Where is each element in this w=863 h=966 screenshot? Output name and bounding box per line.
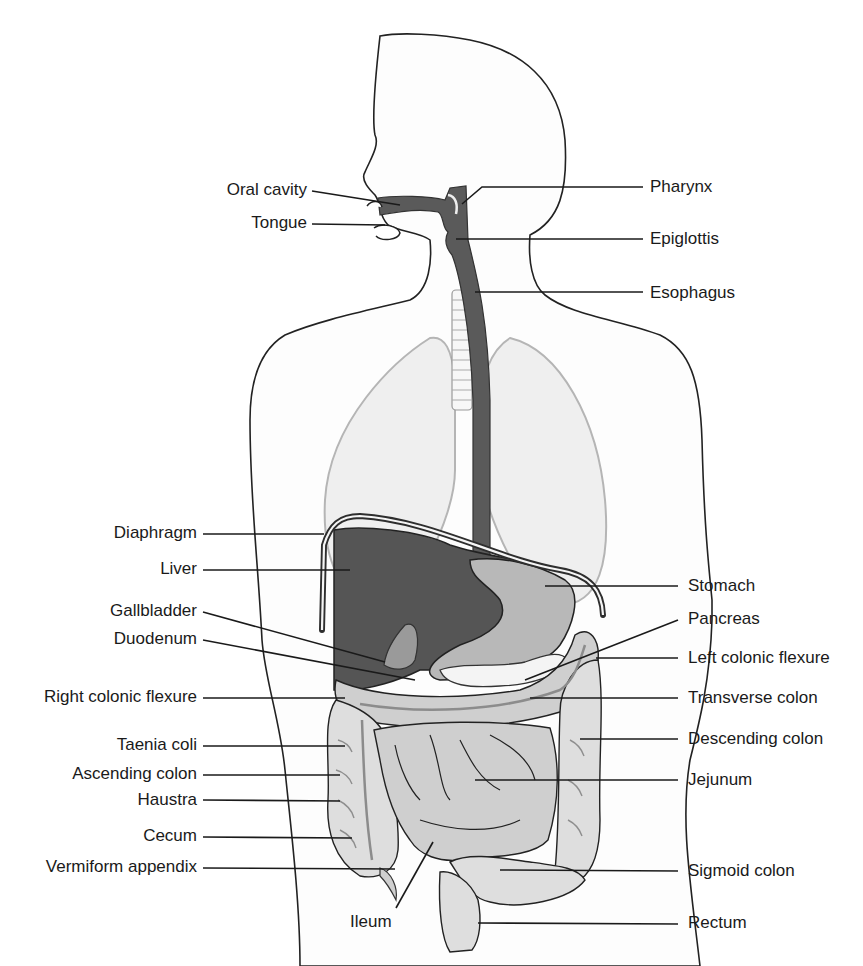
label-tongue: Tongue [251,213,307,233]
label-stomach: Stomach [688,576,755,596]
label-duodenum: Duodenum [114,629,197,649]
label-jejunum: Jejunum [688,770,752,790]
label-ascending-colon: Ascending colon [72,764,197,784]
label-cecum: Cecum [143,826,197,846]
label-transverse-colon: Transverse colon [688,688,818,708]
label-haustra: Haustra [137,790,197,810]
label-epiglottis: Epiglottis [650,229,719,249]
label-esophagus: Esophagus [650,283,735,303]
label-pancreas: Pancreas [688,609,760,629]
label-rectum: Rectum [688,913,747,933]
label-right-colonic-flexure: Right colonic flexure [44,687,197,707]
label-diaphragm: Diaphragm [114,523,197,543]
label-vermiform-appendix: Vermiform appendix [46,857,197,877]
label-pharynx: Pharynx [650,177,712,197]
label-oral-cavity: Oral cavity [227,180,307,200]
label-taenia-coli: Taenia coli [117,735,197,755]
label-ileum: Ileum [350,912,392,932]
label-sigmoid-colon: Sigmoid colon [688,861,795,881]
label-left-colonic-flexure: Left colonic flexure [688,648,830,668]
digestive-system-diagram [0,0,863,966]
label-liver: Liver [160,559,197,579]
label-gallbladder: Gallbladder [110,601,197,621]
label-descending-colon: Descending colon [688,729,823,749]
